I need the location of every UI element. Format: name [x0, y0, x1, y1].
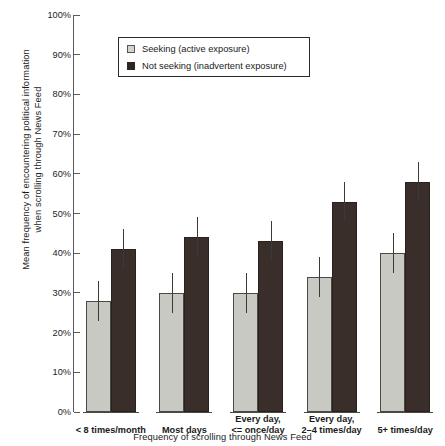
legend-item-seeking: Seeking (active exposure)	[127, 41, 250, 57]
y-axis-tick: 60%	[30, 168, 80, 180]
bar-not-seeking	[258, 241, 283, 412]
error-bar	[271, 221, 272, 261]
bar-not-seeking	[405, 182, 430, 412]
error-bar	[246, 273, 247, 313]
y-axis-tick-label: 40%	[53, 247, 71, 259]
y-axis-tick: 50%	[30, 208, 80, 220]
y-axis-tick-label: 90%	[53, 49, 71, 61]
y-axis-tick-label: 70%	[53, 128, 71, 140]
error-bar	[123, 229, 124, 269]
chart-legend: Seeking (active exposure) Not seeking (i…	[118, 37, 310, 77]
y-axis-tick-label: 10%	[53, 366, 71, 378]
y-axis-tick: 90%	[30, 49, 80, 61]
error-bar	[418, 162, 419, 202]
y-axis-tick: 10%	[30, 366, 80, 378]
x-axis-title: Frequency of scrolling through News Feed	[0, 432, 445, 442]
x-axis-base-segment	[83, 412, 139, 413]
bar-not-seeking	[111, 249, 136, 412]
y-axis-tick-label: 30%	[53, 287, 71, 299]
bar-chart: Mean frequency of encountering political…	[0, 0, 445, 446]
bar-group	[380, 15, 430, 412]
error-bar	[393, 233, 394, 273]
legend-swatch-not-seeking-icon	[127, 62, 135, 70]
legend-swatch-seeking-icon	[127, 45, 135, 53]
x-axis-base-segment	[304, 412, 360, 413]
bar-seeking	[380, 253, 405, 412]
error-bar	[197, 217, 198, 257]
error-bar	[98, 281, 99, 321]
y-axis-tick-label: 60%	[53, 168, 71, 180]
y-axis-tick: 100%	[30, 9, 80, 21]
y-axis-tick-label: 80%	[53, 88, 71, 100]
legend-label-not-seeking: Not seeking (inadvertent exposure)	[142, 61, 287, 72]
y-axis-tick: 20%	[30, 327, 80, 339]
y-axis-tick-label: 100%	[48, 9, 72, 21]
x-axis-base-segment	[377, 412, 433, 413]
bar-not-seeking	[332, 202, 357, 412]
y-axis-tick: 70%	[30, 128, 80, 140]
legend-label-seeking: Seeking (active exposure)	[142, 44, 250, 55]
bar-group	[307, 15, 357, 412]
error-bar	[319, 257, 320, 297]
x-axis-base-segment	[230, 412, 286, 413]
bar-seeking	[307, 277, 332, 412]
y-axis-tick: 80%	[30, 88, 80, 100]
y-axis-tick-label: 20%	[53, 327, 71, 339]
legend-item-not-seeking: Not seeking (inadvertent exposure)	[127, 58, 287, 74]
y-axis-tick: 40%	[30, 247, 80, 259]
error-bar	[172, 273, 173, 313]
x-axis-line	[74, 412, 442, 413]
x-axis-base-segment	[156, 412, 212, 413]
error-bar	[344, 182, 345, 222]
bar-not-seeking	[184, 237, 209, 412]
y-axis-tick-label: 50%	[53, 208, 71, 220]
y-axis-tick: 30%	[30, 287, 80, 299]
